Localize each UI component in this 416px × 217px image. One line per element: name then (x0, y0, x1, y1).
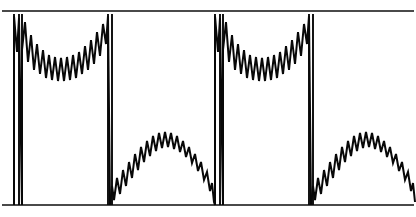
waveform-figure (0, 0, 416, 217)
waveform-canvas (0, 0, 416, 217)
